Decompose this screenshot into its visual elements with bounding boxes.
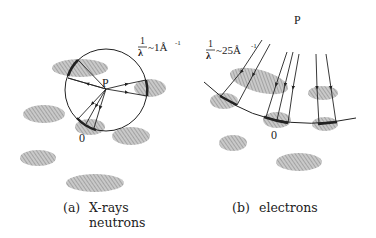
panel-b-point-o-label: 0	[271, 128, 277, 142]
svg-text:-1: -1	[251, 42, 257, 50]
svg-text:-1: -1	[175, 39, 181, 47]
lattice-point-blob	[23, 105, 65, 123]
svg-text:~25Å: ~25Å	[216, 44, 241, 56]
diffraction-diagram: P 0 1 λ ~1Å -1 P 0 1 λ ~	[0, 0, 376, 238]
caption-a-line2: neutrons	[89, 215, 146, 230]
lattice-point-blob	[66, 174, 124, 192]
origin-point-o-label: 0	[79, 131, 85, 145]
panel-b-point-p-label: P	[294, 13, 301, 27]
lattice-point-blob	[308, 86, 338, 100]
lattice-point-blob	[210, 93, 238, 109]
caption-a-line1: X-rays	[89, 200, 129, 215]
panel-a-lattice-points	[20, 59, 166, 192]
panel-a-wavevector-label: 1 λ ~1Å -1	[138, 35, 181, 58]
svg-text:1: 1	[140, 35, 145, 46]
svg-text:~1Å: ~1Å	[148, 41, 167, 53]
svg-text:λ: λ	[206, 50, 211, 61]
panel-b-wavevector-label: 1 λ ~25Å -1	[206, 38, 257, 61]
svg-text:λ: λ	[138, 47, 143, 58]
lattice-point-blob	[276, 153, 322, 171]
lattice-point-blob	[20, 150, 56, 166]
svg-text:1: 1	[208, 38, 213, 49]
caption-b-tag: (b)	[232, 200, 250, 215]
lattice-point-blob	[219, 135, 247, 151]
origin-point-p-label: P	[102, 76, 109, 90]
caption-b-line1: electrons	[259, 200, 318, 215]
caption-a-tag: (a)	[63, 200, 80, 215]
